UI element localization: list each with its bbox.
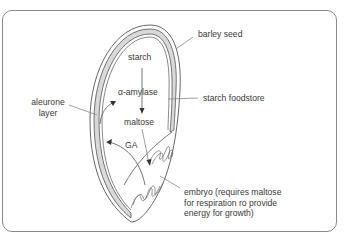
- label-aleurone-line2: layer: [27, 108, 69, 119]
- label-barley-seed: barley seed: [198, 29, 242, 40]
- leader-barley-seed: [176, 37, 193, 49]
- label-maltose: maltose: [124, 117, 154, 128]
- label-ga: GA: [125, 140, 137, 151]
- label-embryo-line3: energy for growth): [184, 208, 281, 219]
- label-starch-foodstore: starch foodstore: [203, 93, 265, 104]
- label-alpha-amylase: α-amylase: [118, 87, 158, 98]
- leader-embryo: [160, 176, 180, 188]
- label-embryo: embryo (requires maltose for respiration…: [184, 187, 281, 219]
- barley-seed-diagram: [0, 0, 347, 246]
- embryo-folds: [133, 186, 160, 205]
- label-embryo-line1: embryo (requires maltose: [184, 187, 281, 198]
- label-embryo-line2: for respiration ro provide: [184, 198, 281, 209]
- label-aleurone-layer: aleurone layer: [27, 97, 69, 118]
- label-starch: starch: [128, 52, 151, 63]
- label-aleurone-line1: aleurone: [27, 97, 69, 108]
- leader-aleurone: [69, 105, 97, 115]
